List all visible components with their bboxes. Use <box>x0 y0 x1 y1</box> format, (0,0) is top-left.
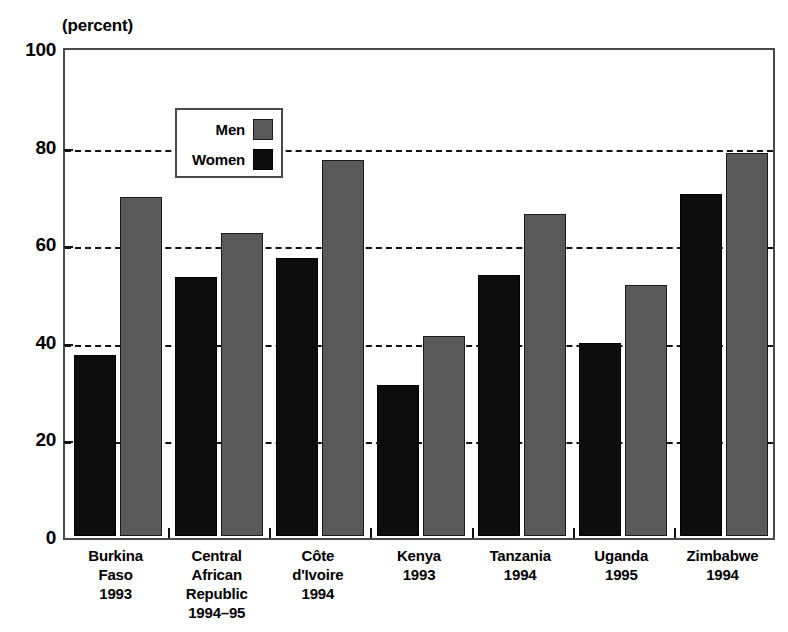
x-axis-label-line: Republic <box>166 584 267 603</box>
x-axis-label-line: African <box>166 565 267 584</box>
legend-label-women: Women <box>192 151 245 168</box>
x-tick-mark <box>168 528 170 538</box>
x-axis-label-line: 1994 <box>267 584 368 603</box>
y-axis-unit-caption: (percent) <box>62 16 133 36</box>
bar-men <box>524 214 566 536</box>
legend-label-men: Men <box>216 121 245 138</box>
bar-women <box>377 385 419 536</box>
x-tick-mark <box>674 528 676 538</box>
x-axis-label-line: Côte <box>267 546 368 565</box>
x-tick-mark <box>370 528 372 538</box>
x-axis-label-line: Kenya <box>368 546 469 565</box>
bar-group <box>370 52 471 536</box>
bar-men <box>322 160 364 536</box>
bar-women <box>74 355 116 536</box>
x-axis-label-line: Burkina <box>65 546 166 565</box>
x-tick-mark <box>573 528 575 538</box>
x-axis-label-line: Uganda <box>571 546 672 565</box>
bar-men <box>423 336 465 536</box>
x-axis-label-line: Central <box>166 546 267 565</box>
legend-swatch-women <box>253 149 273 170</box>
y-tick-label-60: 60 <box>8 234 56 256</box>
bar-women <box>276 258 318 536</box>
y-tick-label-40: 40 <box>8 332 56 354</box>
bar-group <box>269 52 370 536</box>
chart-legend: Men Women <box>175 108 283 178</box>
legend-entry-women: Women <box>177 144 281 174</box>
legend-swatch-men <box>253 119 273 140</box>
x-axis-label-line: Zimbabwe <box>672 546 773 565</box>
x-axis-label-line: 1994–95 <box>166 603 267 622</box>
x-axis-label-line: Tanzania <box>470 546 571 565</box>
bar-men <box>120 197 162 536</box>
x-axis-label-line: 1993 <box>368 565 469 584</box>
bar-group <box>472 52 573 536</box>
bars-layer <box>67 52 771 536</box>
x-axis-category-labels: BurkinaFaso1993CentralAfricanRepublic199… <box>63 546 775 632</box>
bar-women <box>478 275 520 536</box>
plot-area: Men Women <box>63 48 775 540</box>
x-axis-label-line: 1995 <box>571 565 672 584</box>
bar-group <box>573 52 674 536</box>
x-axis-label: BurkinaFaso1993 <box>65 546 166 603</box>
bar-women <box>680 194 722 536</box>
bar-men <box>726 153 768 536</box>
y-tick-label-0: 0 <box>8 527 56 549</box>
x-axis-label-line: 1994 <box>672 565 773 584</box>
y-tick-label-80: 80 <box>8 137 56 159</box>
bar-men <box>221 233 263 536</box>
x-axis-label: Kenya1993 <box>368 546 469 584</box>
x-axis-label: Uganda1995 <box>571 546 672 584</box>
x-axis-label-line: d'Ivoire <box>267 565 368 584</box>
x-axis-label: Zimbabwe1994 <box>672 546 773 584</box>
bar-women <box>579 343 621 536</box>
y-tick-label-100: 100 <box>8 39 56 61</box>
y-axis-tick-labels: 020406080100 <box>0 48 56 540</box>
bar-group <box>674 52 775 536</box>
x-axis-label-line: 1993 <box>65 584 166 603</box>
x-axis-label: CentralAfricanRepublic1994–95 <box>166 546 267 622</box>
y-tick-label-20: 20 <box>8 429 56 451</box>
x-axis-label: Côted'Ivoire1994 <box>267 546 368 603</box>
x-tick-mark <box>269 528 271 538</box>
bar-men <box>625 285 667 536</box>
bar-group <box>67 52 168 536</box>
legend-entry-men: Men <box>177 114 281 144</box>
x-tick-mark <box>472 528 474 538</box>
x-axis-label: Tanzania1994 <box>470 546 571 584</box>
bar-women <box>175 277 217 536</box>
bar-chart: (percent) 020406080100 Men Women Burkina… <box>0 0 788 632</box>
x-axis-label-line: Faso <box>65 565 166 584</box>
x-axis-label-line: 1994 <box>470 565 571 584</box>
